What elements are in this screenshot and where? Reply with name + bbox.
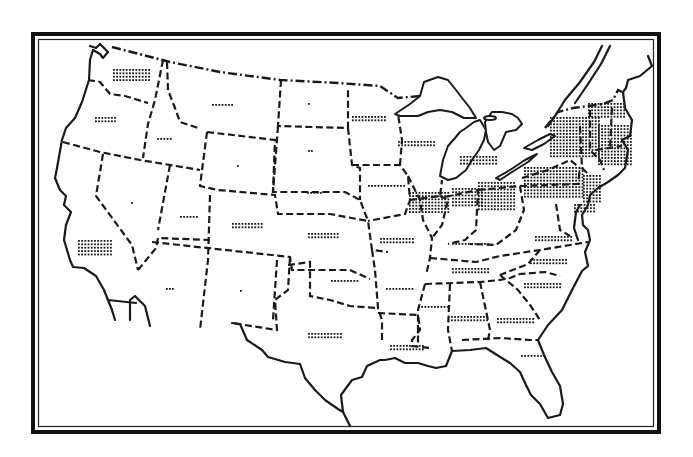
state-dots-mo — [380, 238, 414, 243]
state-dots-nd — [308, 103, 310, 105]
state-borders — [63, 60, 622, 351]
state-dots-ar — [386, 288, 413, 290]
state-dots-ca — [78, 240, 112, 255]
state-dots-fl — [521, 355, 545, 357]
state-dots-co — [232, 223, 263, 228]
state-dots-wy — [237, 165, 239, 167]
state-dots-pa — [524, 167, 583, 198]
state-dots-il — [409, 192, 449, 213]
great-lakes — [395, 77, 555, 180]
state-dots-la — [390, 345, 424, 350]
state-dots-ok — [331, 280, 358, 282]
canada-border — [112, 47, 622, 128]
state-dots-nm — [240, 290, 242, 292]
state-dots-al — [451, 316, 488, 321]
state-dots-ut — [180, 216, 198, 218]
state-dots-sc — [524, 283, 561, 288]
state-dots-tx — [308, 333, 342, 338]
state-dots-wi — [398, 141, 435, 146]
state-dots-ks — [308, 233, 339, 238]
state-dots-wa — [113, 69, 150, 81]
state-dots-va — [535, 236, 572, 241]
us-dot-density-map — [0, 0, 693, 457]
state-dots-id — [157, 138, 172, 140]
state-dots-ms — [418, 306, 449, 308]
state-dots-mn — [352, 116, 386, 121]
state-dots-ga — [497, 318, 534, 323]
state-dots-mt — [212, 104, 233, 106]
state-dots-ne — [307, 192, 322, 194]
state-dots-ia — [368, 185, 405, 187]
state-dots-sd — [308, 150, 313, 152]
state-dots-nc — [530, 259, 567, 264]
state-dots-tn — [452, 268, 489, 273]
state-dots-az — [166, 288, 174, 290]
state-dots-nv — [131, 202, 133, 204]
state-dots-or — [95, 117, 116, 122]
